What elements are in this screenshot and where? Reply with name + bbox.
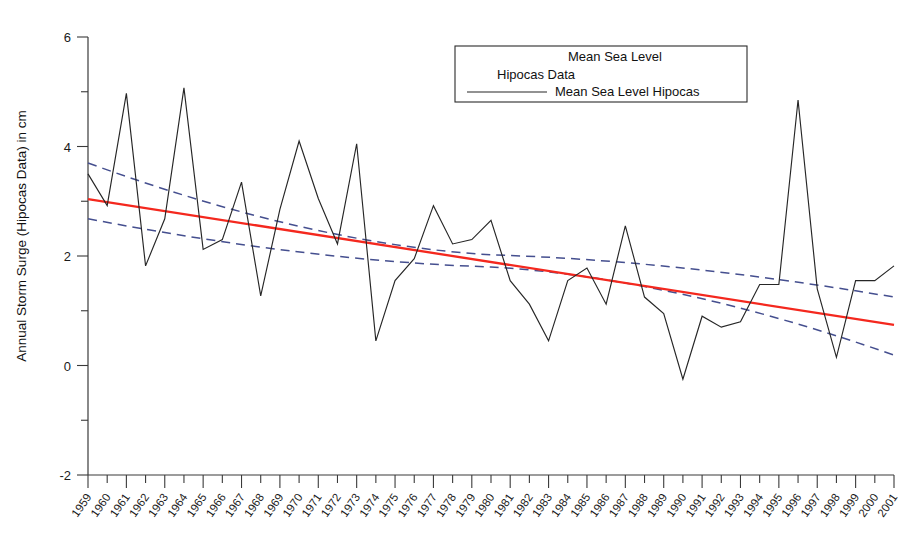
x-tick-label: 1981 (491, 491, 516, 519)
x-tick-label: 1996 (779, 491, 804, 519)
x-tick-label: 1972 (319, 491, 344, 519)
x-tick-label: 1976 (395, 491, 420, 519)
x-axis-ticks (88, 475, 894, 488)
x-tick-label: 2001 (875, 491, 900, 519)
x-tick-label: 1969 (261, 491, 286, 519)
x-tick-label: 1999 (837, 491, 862, 519)
x-tick-label: 1974 (357, 491, 382, 519)
x-tick-label: 1988 (626, 491, 651, 519)
chart-figure: -20246 195919601961196219631964196519661… (0, 0, 922, 549)
x-tick-label: 1978 (434, 491, 459, 519)
x-tick-label: 1984 (549, 491, 574, 519)
x-tick-label: 1982 (511, 491, 536, 519)
legend-title-line-2: Hipocas Data (497, 67, 576, 82)
x-tick-label: 1998 (818, 491, 843, 519)
y-tick-label: 2 (64, 249, 71, 264)
x-tick-label: 1989 (645, 491, 670, 519)
y-tick-label: 6 (64, 30, 71, 45)
x-tick-label: 1971 (299, 491, 324, 519)
x-tick-label: 1977 (415, 491, 440, 519)
x-tick-label: 1962 (127, 491, 152, 519)
x-tick-label: 1964 (165, 491, 190, 519)
x-tick-label: 1960 (88, 491, 113, 519)
confidence-bands (88, 163, 894, 355)
x-tick-label: 1992 (702, 491, 727, 519)
x-tick-label: 1987 (606, 491, 631, 519)
x-tick-label: 1968 (242, 491, 267, 519)
x-tick-label: 1980 (472, 491, 497, 519)
series-mean-sea-level-hipocas (88, 88, 894, 379)
x-tick-label: 1970 (280, 491, 305, 519)
x-tick-label: 1979 (453, 491, 478, 519)
lower-confidence-band (88, 219, 894, 355)
y-tick-label: 0 (64, 359, 71, 374)
x-tick-label: 1986 (587, 491, 612, 519)
x-tick-label: 1993 (722, 491, 747, 519)
x-tick-label: 1975 (376, 491, 401, 519)
y-tick-label: 4 (64, 140, 71, 155)
x-axis-tick-labels: 1959196019611962196319641965196619671968… (69, 491, 900, 519)
y-axis-group: -20246 (59, 30, 88, 483)
x-tick-label: 1966 (203, 491, 228, 519)
y-axis-ticks (77, 37, 88, 475)
chart-legend: Mean Sea Level Hipocas Data Mean Sea Lev… (455, 46, 747, 102)
x-tick-label: 1963 (146, 491, 171, 519)
x-tick-label: 1983 (530, 491, 555, 519)
x-tick-label: 1997 (798, 491, 823, 519)
chart-svg: -20246 195919601961196219631964196519661… (0, 0, 922, 549)
x-tick-label: 1959 (69, 491, 94, 519)
x-tick-label: 1985 (568, 491, 593, 519)
x-tick-label: 1994 (741, 491, 766, 519)
x-tick-label: 1973 (338, 491, 363, 519)
x-tick-label: 1967 (223, 491, 248, 519)
x-tick-label: 1995 (760, 491, 785, 519)
y-axis-title: Annual Storm Surge (Hipocas Data) in cm (14, 110, 29, 361)
y-tick-label: -2 (59, 468, 71, 483)
x-tick-label: 1961 (108, 491, 133, 519)
upper-confidence-band (88, 163, 894, 297)
x-tick-label: 1990 (664, 491, 689, 519)
x-tick-label: 1965 (184, 491, 209, 519)
legend-label-series-0: Mean Sea Level Hipocas (555, 84, 700, 99)
y-axis-tick-labels: -20246 (59, 30, 71, 483)
x-tick-label: 2000 (856, 491, 881, 519)
linear-trend-line (88, 199, 894, 325)
legend-title-line-1: Mean Sea Level (568, 49, 662, 64)
x-tick-label: 1991 (683, 491, 708, 519)
x-axis-group: 1959196019611962196319641965196619671968… (69, 475, 900, 519)
